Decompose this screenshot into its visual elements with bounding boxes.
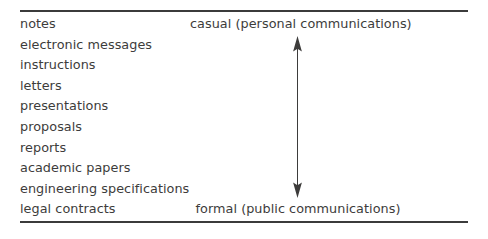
double-headed-vertical-arrow-icon [190, 36, 406, 198]
spectrum-bottom-label: formal (public communications) [190, 199, 406, 220]
bottom-horizontal-rule [20, 221, 468, 223]
formality-spectrum: casual (personal communications) formal … [190, 14, 406, 218]
spectrum-top-label: casual (personal communications) [190, 14, 406, 35]
formality-spectrum-figure: notes electronic messages instructions l… [0, 0, 488, 239]
top-horizontal-rule [20, 10, 468, 12]
arrow-svg [190, 36, 406, 198]
